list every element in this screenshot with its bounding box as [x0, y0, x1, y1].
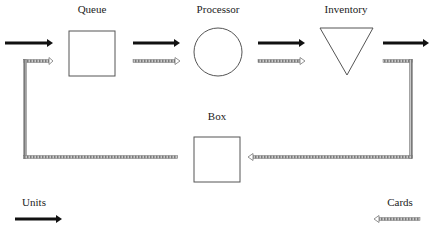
units-arrow-processor-inventory: [258, 39, 305, 47]
queue-node: [69, 31, 115, 76]
legend-units-arrow: [15, 215, 62, 223]
units-arrow-queue-processor: [133, 39, 180, 47]
cards-arrow-queue-processor: [133, 58, 180, 65]
units-arrow-out: [383, 39, 429, 47]
legend-units-label: Units: [22, 196, 46, 208]
queue-label: Queue: [78, 3, 107, 15]
cards-arrow-processor-inventory: [258, 58, 305, 65]
legend-cards-label: Cards: [387, 196, 413, 208]
legend-cards-arrow: [374, 216, 420, 223]
units-arrow-in: [5, 39, 53, 47]
processor-node: [194, 28, 242, 76]
inventory-label: Inventory: [325, 3, 368, 15]
box-node: [194, 137, 240, 182]
processor-label: Processor: [197, 3, 240, 15]
inventory-node: [320, 28, 373, 75]
cards-loop-right: [248, 60, 413, 161]
box-label: Box: [208, 110, 226, 122]
cards-arrow-to-queue: [24, 58, 54, 65]
